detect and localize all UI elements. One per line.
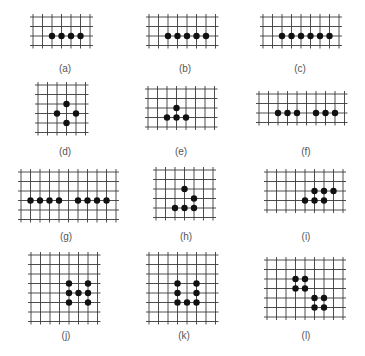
- pixel-dot: [193, 299, 199, 305]
- pixel-grid: [156, 170, 214, 219]
- pixel-dot: [191, 195, 197, 201]
- panel-label-i: (i): [291, 231, 321, 242]
- pixel-dot: [193, 290, 199, 296]
- pixel-dot: [66, 280, 72, 286]
- pixel-dot: [164, 114, 170, 120]
- pixel-dot: [284, 110, 290, 116]
- pixel-grid: [263, 17, 340, 47]
- pixel-grid: [31, 255, 99, 323]
- panel-label-c: (c): [285, 63, 315, 74]
- panel-label-j: (j): [51, 330, 81, 341]
- pixel-dot: [75, 290, 81, 296]
- pixel-dot: [288, 33, 294, 39]
- pixel-dot: [174, 33, 180, 39]
- panel-label-h: (h): [171, 231, 201, 242]
- pixel-dot: [68, 33, 74, 39]
- pixel-dot: [184, 299, 190, 305]
- pixel-dot: [46, 197, 52, 203]
- pixel-dot: [184, 33, 190, 39]
- pixel-dot: [193, 280, 199, 286]
- pixel-dot: [321, 197, 327, 203]
- pixel-grid: [267, 260, 344, 318]
- pixel-dot: [56, 197, 62, 203]
- pixel-dot: [321, 188, 327, 194]
- pixel-dot: [311, 188, 317, 194]
- pixel-dot: [54, 110, 60, 116]
- pixel-dot: [174, 299, 180, 305]
- panel-label-f: (f): [291, 146, 321, 157]
- pixel-dot: [322, 110, 328, 116]
- pixel-dot: [181, 205, 187, 211]
- pixel-grid: [267, 172, 344, 211]
- pixel-dot: [203, 33, 209, 39]
- pixel-dot: [181, 186, 187, 192]
- pixel-dot: [58, 33, 64, 39]
- pixel-dot: [84, 197, 90, 203]
- pixel-dot: [275, 110, 281, 116]
- pixel-grid: [21, 172, 117, 221]
- pixel-dot: [85, 280, 91, 286]
- panel-label-l: (l): [291, 330, 321, 341]
- pixel-dot: [174, 280, 180, 286]
- pixel-dot: [307, 33, 313, 39]
- pixel-dot: [66, 299, 72, 305]
- pixel-dot: [173, 105, 179, 111]
- pixel-dot: [63, 120, 69, 126]
- pixel-dot: [326, 33, 332, 39]
- pixel-grid: [33, 17, 91, 47]
- pixel-dot: [298, 33, 304, 39]
- pixel-dot: [321, 304, 327, 310]
- pixel-dot: [183, 114, 189, 120]
- pixel-dot: [85, 290, 91, 296]
- pixel-dot: [172, 205, 178, 211]
- pixel-grid: [148, 89, 216, 128]
- pixel-dot: [302, 285, 308, 291]
- pixel-dot: [292, 285, 298, 291]
- pixel-dot: [311, 197, 317, 203]
- pixel-dot: [63, 101, 69, 107]
- pixel-grid: [259, 94, 346, 124]
- pixel-dot: [311, 295, 317, 301]
- pixel-dot: [302, 276, 308, 282]
- panel-label-a: (a): [50, 63, 80, 74]
- pixel-dot: [73, 110, 79, 116]
- pixel-dot: [279, 33, 285, 39]
- pixel-dot: [321, 295, 327, 301]
- pixel-dot: [332, 110, 338, 116]
- pixel-dot: [292, 276, 298, 282]
- pixel-dot: [193, 33, 199, 39]
- pixel-dot: [27, 197, 33, 203]
- pixel-dot: [165, 33, 171, 39]
- pixel-dot: [85, 299, 91, 305]
- panel-label-e: (e): [166, 146, 196, 157]
- pixel-dot: [191, 205, 197, 211]
- pixel-dot: [103, 197, 109, 203]
- pixel-dot: [66, 290, 72, 296]
- pixel-dot: [294, 110, 300, 116]
- pixel-grid: [38, 85, 87, 134]
- pixel-dot: [75, 197, 81, 203]
- pixel-dot: [173, 114, 179, 120]
- pixel-grid: [149, 255, 217, 323]
- panel-label-k: (k): [169, 330, 199, 341]
- pixel-dot: [311, 304, 317, 310]
- panel-label-d: (d): [50, 146, 80, 157]
- pixel-dot: [302, 197, 308, 203]
- pixel-dot: [330, 188, 336, 194]
- panel-label-b: (b): [170, 63, 200, 74]
- pixel-dot: [174, 290, 180, 296]
- panel-label-g: (g): [51, 231, 81, 242]
- pixel-grid: [149, 17, 217, 47]
- pixel-dot: [77, 33, 83, 39]
- pixel-dot: [317, 33, 323, 39]
- pixel-dot: [37, 197, 43, 203]
- pixel-dot: [94, 197, 100, 203]
- pixel-dot: [49, 33, 55, 39]
- pixel-dot: [313, 110, 319, 116]
